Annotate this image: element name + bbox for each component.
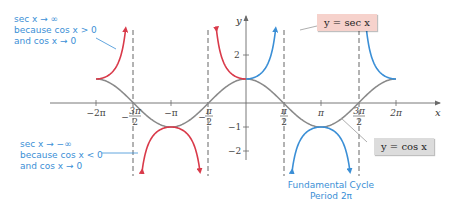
legend-sec-box: y = sec x xyxy=(317,14,377,31)
y-tick-neg1: −1 xyxy=(228,122,241,132)
secant-branch-middle-lower xyxy=(142,127,200,171)
y-tick-2: 2 xyxy=(234,50,240,60)
annotation-neg-line3: and cos x → 0 xyxy=(20,161,103,172)
leader-lines xyxy=(96,26,367,153)
y-tick-neg2: −2 xyxy=(228,146,241,156)
x-tick-labels: −2π − 3π 2 −π − π 2 π 2 π 3π 2 2π xyxy=(86,106,402,127)
leader-cos-box xyxy=(341,118,367,142)
annotation-pos-line2: because cos x > 0 xyxy=(14,25,97,36)
x-tick-pi2-den: 2 xyxy=(281,117,287,127)
x-tick-3pi2-num: 3π xyxy=(353,106,366,116)
x-axis-label: x xyxy=(435,107,441,118)
annotation-fundamental-cycle: Fundamental Cycle Period 2π xyxy=(286,180,376,202)
x-tick-neg-3pi2-num: 3π xyxy=(129,106,142,116)
secant-branch-center-left xyxy=(216,29,246,79)
x-tick-neg-3pi2-minus: − xyxy=(121,112,129,122)
cycle-line2: Period 2π xyxy=(286,191,376,202)
x-tick-neg-2pi: −2π xyxy=(86,108,105,118)
y-axis-label: y xyxy=(235,15,242,26)
annotation-pos-line1: sec x → ∞ xyxy=(14,14,97,25)
x-tick-neg-pi2-num: π xyxy=(205,106,213,116)
x-tick-neg-pi2-minus: − xyxy=(198,112,206,122)
leader-sec-box xyxy=(300,26,317,30)
x-tick-3pi2-den: 2 xyxy=(356,117,362,127)
secant-branch-center-right xyxy=(246,29,276,79)
annotation-neg-line2: because cos x < 0 xyxy=(20,150,103,161)
x-tick-neg-3pi2-den: 2 xyxy=(132,117,138,127)
leader-pos-inf xyxy=(96,38,116,49)
secant-branch-right-upper xyxy=(366,29,396,79)
x-tick-pi: π xyxy=(317,108,325,118)
annotation-pos-line3: and cos x → 0 xyxy=(14,36,97,47)
annotation-neg-line1: sec x → −∞ xyxy=(20,139,103,150)
annotation-pos-infinity: sec x → ∞ because cos x > 0 and cos x → … xyxy=(14,14,97,47)
x-tick-2pi: 2π xyxy=(389,108,403,118)
secant-branch-right-lower xyxy=(292,127,350,171)
annotation-neg-infinity: sec x → −∞ because cos x < 0 and cos x →… xyxy=(20,139,103,172)
secant-branch-left-upper xyxy=(96,29,126,79)
x-tick-neg-pi2-den: 2 xyxy=(206,117,212,127)
x-tick-pi2-num: π xyxy=(280,106,288,116)
cycle-line1: Fundamental Cycle xyxy=(286,180,376,191)
legend-cos-box: y = cos x xyxy=(374,138,434,155)
x-tick-neg-pi: −π xyxy=(164,108,178,118)
